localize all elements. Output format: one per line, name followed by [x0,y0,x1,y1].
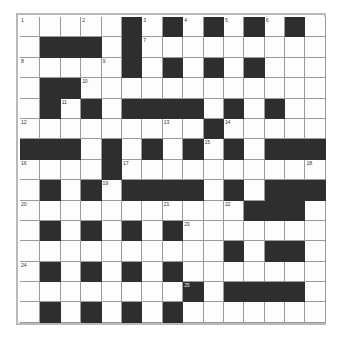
crossword-cell[interactable] [61,262,81,282]
crossword-cell[interactable] [163,160,183,180]
crossword-cell[interactable] [40,160,60,180]
crossword-cell[interactable] [142,58,162,78]
crossword-cell[interactable] [305,119,325,139]
crossword-cell[interactable] [305,302,325,322]
crossword-cell[interactable]: 13 [163,119,183,139]
crossword-cell[interactable] [81,139,101,159]
crossword-cell[interactable] [305,99,325,119]
crossword-cell[interactable] [204,302,224,322]
crossword-cell[interactable]: 20 [20,201,40,221]
crossword-cell[interactable] [183,58,203,78]
crossword-cell[interactable] [142,160,162,180]
crossword-cell[interactable] [142,302,162,322]
crossword-cell[interactable] [40,58,60,78]
crossword-cell[interactable] [285,78,305,98]
crossword-cell[interactable] [20,282,40,302]
crossword-cell[interactable] [142,119,162,139]
crossword-cell[interactable] [244,78,264,98]
crossword-cell[interactable] [61,201,81,221]
crossword-cell[interactable] [305,78,325,98]
crossword-cell[interactable] [183,201,203,221]
crossword-cell[interactable] [102,99,122,119]
crossword-cell[interactable] [61,241,81,261]
crossword-cell[interactable] [61,119,81,139]
crossword-cell[interactable] [102,221,122,241]
crossword-cell[interactable]: 14 [224,119,244,139]
crossword-cell[interactable] [20,78,40,98]
crossword-cell[interactable] [183,302,203,322]
crossword-cell[interactable] [102,37,122,57]
crossword-cell[interactable] [244,180,264,200]
crossword-cell[interactable] [122,139,142,159]
crossword-cell[interactable]: 8 [20,58,40,78]
crossword-cell[interactable] [183,78,203,98]
crossword-cell[interactable] [285,160,305,180]
crossword-cell[interactable] [285,58,305,78]
crossword-cell[interactable] [142,78,162,98]
crossword-cell[interactable] [142,241,162,261]
crossword-cell[interactable] [102,282,122,302]
crossword-cell[interactable] [40,201,60,221]
crossword-cell[interactable] [102,241,122,261]
crossword-cell[interactable] [265,302,285,322]
crossword-cell[interactable] [122,78,142,98]
crossword-cell[interactable] [183,119,203,139]
crossword-cell[interactable] [81,58,101,78]
crossword-cell[interactable] [142,201,162,221]
crossword-cell[interactable]: 2 [81,17,101,37]
crossword-cell[interactable] [163,241,183,261]
crossword-cell[interactable] [285,37,305,57]
crossword-cell[interactable] [102,119,122,139]
crossword-cell[interactable]: 18 [305,160,325,180]
crossword-cell[interactable] [265,119,285,139]
crossword-cell[interactable] [40,17,60,37]
crossword-cell[interactable]: 22 [224,201,244,221]
crossword-cell[interactable] [20,221,40,241]
crossword-cell[interactable] [305,221,325,241]
crossword-cell[interactable] [244,119,264,139]
crossword-cell[interactable] [102,262,122,282]
crossword-cell[interactable] [183,241,203,261]
crossword-cell[interactable] [224,58,244,78]
crossword-cell[interactable] [204,78,224,98]
crossword-cell[interactable] [122,201,142,221]
crossword-cell[interactable] [244,221,264,241]
crossword-cell[interactable] [102,17,122,37]
crossword-cell[interactable]: 24 [20,262,40,282]
crossword-cell[interactable] [122,282,142,302]
crossword-cell[interactable] [244,241,264,261]
crossword-cell[interactable] [204,99,224,119]
crossword-cell[interactable] [244,302,264,322]
crossword-cell[interactable] [142,282,162,302]
crossword-cell[interactable]: 11 [61,99,81,119]
crossword-cell[interactable] [265,78,285,98]
crossword-cell[interactable]: 6 [265,17,285,37]
crossword-cell[interactable]: 10 [81,78,101,98]
crossword-cell[interactable] [81,160,101,180]
crossword-cell[interactable] [305,17,325,37]
crossword-cell[interactable] [224,221,244,241]
crossword-cell[interactable]: 17 [122,160,142,180]
crossword-cell[interactable]: 4 [183,17,203,37]
crossword-cell[interactable]: 21 [163,201,183,221]
crossword-cell[interactable] [305,37,325,57]
crossword-cell[interactable]: 9 [102,58,122,78]
crossword-cell[interactable] [224,78,244,98]
crossword-cell[interactable] [204,241,224,261]
crossword-cell[interactable] [204,160,224,180]
crossword-cell[interactable] [204,221,224,241]
crossword-cell[interactable]: 1 [20,17,40,37]
crossword-cell[interactable] [183,160,203,180]
crossword-cell[interactable] [204,201,224,221]
crossword-cell[interactable] [224,302,244,322]
crossword-cell[interactable]: 7 [142,37,162,57]
crossword-cell[interactable] [285,302,305,322]
crossword-cell[interactable] [285,262,305,282]
crossword-cell[interactable] [40,282,60,302]
crossword-cell[interactable] [163,282,183,302]
crossword-cell[interactable]: 3 [142,17,162,37]
crossword-cell[interactable] [163,78,183,98]
crossword-cell[interactable] [265,160,285,180]
crossword-cell[interactable] [20,99,40,119]
crossword-cell[interactable] [224,160,244,180]
